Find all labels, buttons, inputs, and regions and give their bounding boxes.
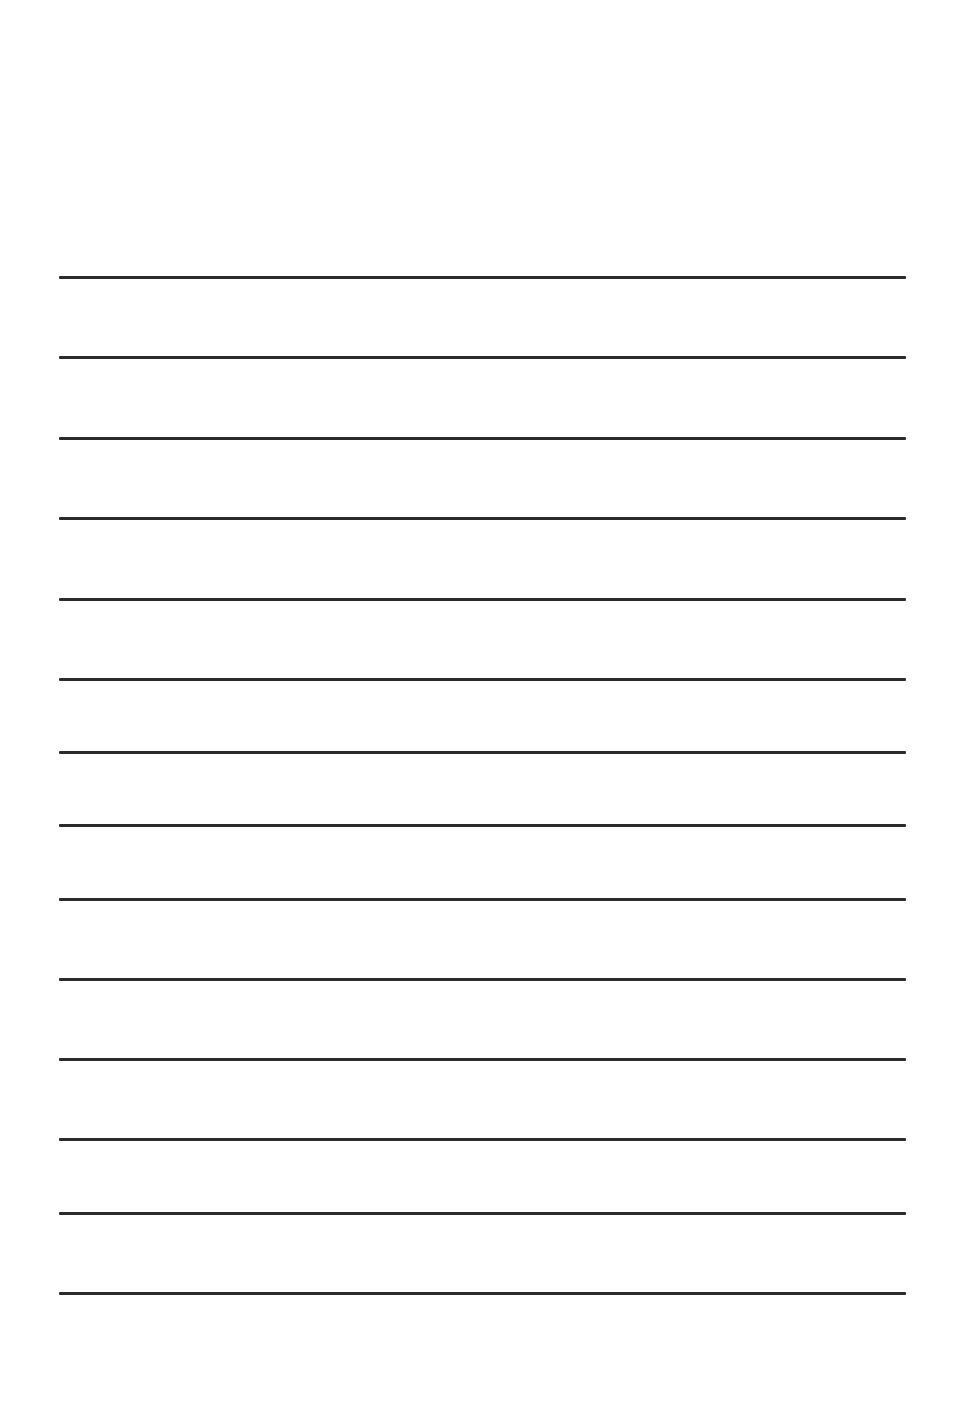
ruled-line-8 — [59, 824, 906, 827]
ruled-line-7 — [59, 751, 906, 754]
ruled-line-2 — [59, 356, 906, 359]
ruled-line-4 — [59, 517, 906, 520]
ruled-line-11 — [59, 1058, 906, 1061]
ruled-line-14 — [59, 1292, 906, 1295]
ruled-line-10 — [59, 978, 906, 981]
ruled-line-6 — [59, 678, 906, 681]
ruled-line-5 — [59, 598, 906, 601]
lined-paper-page — [0, 0, 957, 1413]
ruled-line-3 — [59, 437, 906, 440]
ruled-line-9 — [59, 898, 906, 901]
ruled-line-13 — [59, 1212, 906, 1215]
ruled-line-12 — [59, 1138, 906, 1141]
ruled-line-1 — [59, 276, 906, 279]
